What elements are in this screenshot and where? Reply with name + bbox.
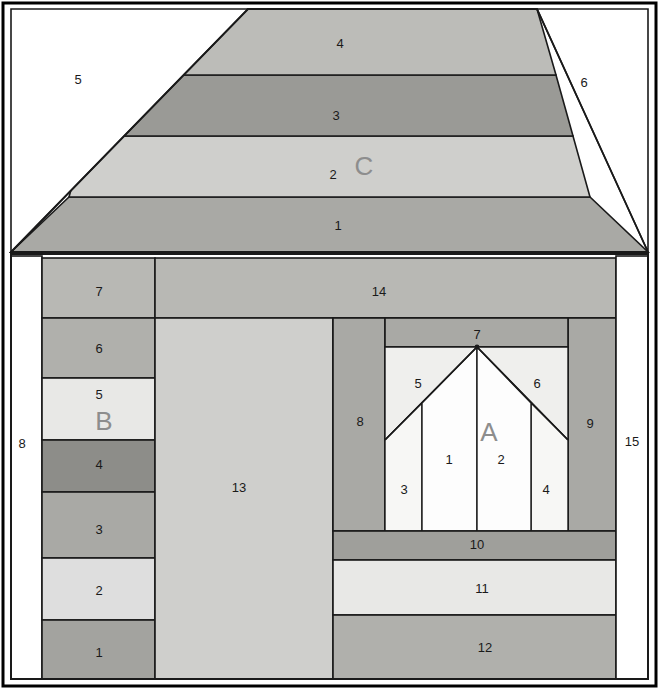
window-sill-10[interactable] (333, 531, 616, 560)
left-piece-1[interactable] (42, 620, 155, 679)
center-header-14[interactable] (155, 258, 616, 318)
left-column-unit-b (11, 256, 155, 679)
window-header-7[interactable] (385, 318, 568, 347)
roof-band-2[interactable] (69, 136, 590, 197)
left-piece-4[interactable] (42, 440, 155, 492)
window-apex-point (475, 345, 480, 350)
window-frame-left-8[interactable] (333, 318, 385, 531)
left-piece-3[interactable] (42, 492, 155, 558)
roof-band-1[interactable] (11, 197, 648, 252)
window-band-12[interactable] (333, 615, 616, 679)
left-strip-8[interactable] (11, 256, 42, 679)
window-frame-right-9[interactable] (568, 318, 616, 531)
left-piece-7[interactable] (42, 258, 155, 318)
left-piece-2[interactable] (42, 558, 155, 620)
window-unit-a (333, 256, 648, 679)
left-piece-6[interactable] (42, 318, 155, 378)
right-strip-15[interactable] (616, 256, 648, 679)
diagram-canvas: C 5 6 1 2 3 4 B 8 7 6 5 4 3 2 1 14 13 A … (0, 0, 659, 689)
center-door-13[interactable] (155, 318, 333, 679)
window-band-11[interactable] (333, 560, 616, 615)
left-piece-5[interactable] (42, 378, 155, 440)
house-block-diagram (0, 0, 659, 689)
